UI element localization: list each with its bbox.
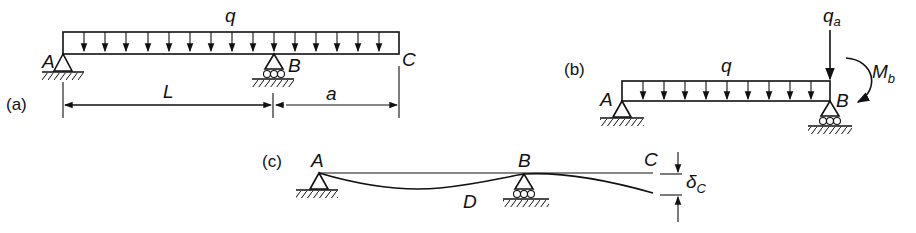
- deflected-shape: [319, 173, 653, 193]
- panel-c-caption: (c): [262, 152, 282, 171]
- panel-a: q A B C L a (a): [6, 5, 416, 118]
- span-label-l: L: [163, 81, 174, 102]
- point-load-label: qa: [823, 5, 841, 29]
- point-b-label: B: [836, 90, 849, 111]
- point-a-label: A: [599, 89, 613, 110]
- point-b-label: B: [288, 55, 301, 76]
- moment-arrow: [846, 58, 872, 102]
- point-c-label: C: [402, 49, 416, 70]
- load-arrows: [643, 81, 811, 99]
- panel-b: q qa Mb A B (b): [564, 5, 895, 134]
- roller-support-b: [503, 174, 549, 207]
- load-arrows: [84, 32, 379, 51]
- distributed-load-block: [63, 32, 399, 54]
- deflection-label: δC: [686, 171, 707, 196]
- panel-b-caption: (b): [564, 60, 585, 79]
- point-b-label: B: [518, 150, 531, 171]
- panel-c: A B C D δC (c): [262, 149, 707, 222]
- point-d-label: D: [463, 191, 477, 212]
- point-c-label: C: [644, 149, 658, 170]
- distributed-load-block: [622, 81, 830, 101]
- moment-label: Mb: [872, 61, 895, 86]
- point-a-label: A: [310, 150, 324, 171]
- beam-diagrams: q A B C L a (a): [0, 0, 916, 233]
- load-label-q: q: [225, 5, 236, 26]
- point-a-label: A: [41, 51, 55, 72]
- panel-a-caption: (a): [6, 95, 27, 114]
- load-label-q: q: [721, 55, 732, 76]
- overhang-label-a: a: [326, 83, 337, 104]
- dimension-lines: [63, 66, 399, 118]
- deflection-marker: [660, 152, 682, 222]
